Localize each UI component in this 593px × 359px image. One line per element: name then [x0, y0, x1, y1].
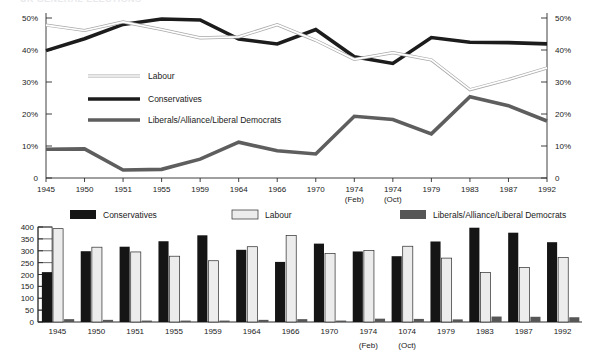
- bar-y-axis-label: 400: [21, 223, 35, 232]
- bar-chart-axes: 400350300250200150100500: [21, 223, 582, 327]
- x-label-1950-1: 1950: [76, 185, 94, 194]
- x-label-1974-9: 1974: [384, 185, 402, 194]
- bar-legend-swatch-liberal: [400, 210, 426, 219]
- bar-liberal-1945: [64, 319, 74, 322]
- bar-y-axis-label: 250: [21, 259, 35, 268]
- bar-labour-1950: [92, 247, 102, 322]
- bar-chart-legend: ConservativesLabourLiberals/Alliance/Lib…: [70, 210, 566, 220]
- bar-conservatives-1964: [236, 250, 246, 322]
- bar-legend-label-conservatives: Conservatives: [103, 210, 157, 220]
- left-y-axis-label: 50%: [22, 14, 38, 23]
- legend-label-conservatives: Conservatives: [148, 94, 202, 104]
- bar-conservatives-1959: [197, 235, 207, 322]
- bar-y-axis-label: 0: [30, 318, 35, 327]
- bar-liberal-1979: [453, 319, 463, 322]
- left-y-axis-label: 40%: [22, 46, 38, 55]
- bar-chart-bars: [42, 228, 579, 322]
- left-y-axis-label: 0: [34, 174, 39, 183]
- bar-liberal-1950: [103, 320, 113, 322]
- x-label-1992-13: 1992: [538, 185, 556, 194]
- bar-liberal-1964: [258, 320, 268, 322]
- x-label-1966-6: 1966: [268, 185, 286, 194]
- bar-conservatives-1979: [430, 241, 440, 322]
- bar-x-sublabel-9: (Oct): [398, 341, 416, 350]
- figure-root: UK GENERAL ELECTIONS 0010%10%20%20%30%30…: [0, 0, 593, 359]
- right-y-axis-label: 30%: [555, 78, 571, 87]
- x-sublabel-8: (Feb): [345, 195, 364, 204]
- line-chart-series: [46, 19, 547, 170]
- bar-x-label-5: 1964: [243, 327, 261, 336]
- bar-liberal-1974 (Oct): [414, 319, 424, 322]
- right-y-axis-label: 0: [555, 174, 560, 183]
- bar-x-label-10: 1979: [437, 327, 455, 336]
- bar-labour-1987: [519, 268, 529, 322]
- bar-liberal-1955: [181, 321, 191, 322]
- bar-labour-1945: [53, 229, 63, 322]
- x-label-1951-2: 1951: [114, 185, 132, 194]
- bar-legend-label-liberal: Liberals/Alliance/Liberal Democrats: [433, 210, 566, 220]
- bar-liberal-1951: [142, 321, 152, 322]
- bar-x-label-1: 1950: [87, 327, 105, 336]
- bar-y-axis-label: 100: [21, 294, 35, 303]
- bar-labour-1951: [131, 252, 141, 322]
- x-label-1979-10: 1979: [422, 185, 440, 194]
- bar-conservatives-1974 (Feb): [353, 251, 363, 322]
- right-y-axis-label: 20%: [555, 110, 571, 119]
- bar-x-label-2: 1951: [126, 327, 144, 336]
- left-y-axis-label: 10%: [22, 142, 38, 151]
- bar-conservatives-1951: [120, 247, 130, 322]
- line-series-labour-fill: [46, 22, 547, 90]
- bar-labour-1959: [208, 261, 218, 322]
- bar-labour-1970: [325, 254, 335, 322]
- x-label-1987-12: 1987: [500, 185, 518, 194]
- bar-liberal-1974 (Feb): [375, 319, 385, 322]
- bar-legend-swatch-labour: [232, 210, 258, 219]
- bar-conservatives-1987: [508, 233, 518, 322]
- bar-conservatives-1970: [314, 244, 324, 322]
- x-label-1974-8: 1974: [345, 185, 363, 194]
- bar-conservatives-1955: [158, 241, 168, 322]
- bar-x-label-4: 1959: [204, 327, 222, 336]
- bar-y-axis-label: 300: [21, 247, 35, 256]
- bar-liberal-1992: [569, 317, 579, 322]
- line-chart-legend: LabourConservativesLiberals/Alliance/Lib…: [88, 71, 281, 125]
- bar-x-label-9: 1074: [398, 327, 416, 336]
- bar-x-label-13: 1992: [554, 327, 572, 336]
- bar-labour-1992: [558, 258, 568, 322]
- bar-conservatives-1992: [547, 242, 557, 322]
- bar-conservatives-1974 (Oct): [392, 256, 402, 322]
- bar-labour-1966: [286, 236, 296, 322]
- bar-labour-1955: [170, 256, 180, 322]
- bar-legend-label-labour: Labour: [265, 210, 292, 220]
- line-series-liberal: [46, 97, 547, 170]
- x-label-1945-0: 1945: [37, 185, 55, 194]
- x-label-1970-7: 1970: [307, 185, 325, 194]
- bar-liberal-1959: [220, 321, 230, 322]
- bar-x-label-0: 1945: [49, 327, 67, 336]
- x-label-1983-11: 1983: [461, 185, 479, 194]
- bar-conservatives-1983: [469, 228, 479, 322]
- vote-share-line-chart: 0010%10%20%20%30%30%40%40%50%50% LabourC…: [0, 0, 593, 205]
- right-y-axis-label: 50%: [555, 14, 571, 23]
- line-chart-x-labels: 194519501951195519591964196619701974(Feb…: [37, 185, 556, 204]
- bar-conservatives-1950: [81, 251, 91, 322]
- bar-labour-1983: [480, 272, 490, 322]
- bar-y-axis-label: 350: [21, 235, 35, 244]
- bar-x-sublabel-8: (Feb): [359, 341, 378, 350]
- bar-y-axis-label: 200: [21, 271, 35, 280]
- bar-x-label-3: 1955: [165, 327, 183, 336]
- bar-y-axis-label: 150: [21, 282, 35, 291]
- right-y-axis-label: 10%: [555, 142, 571, 151]
- bar-labour-1974 (Feb): [364, 251, 374, 322]
- bar-liberal-1966: [297, 319, 307, 322]
- bar-labour-1979: [442, 258, 452, 322]
- bar-x-label-12: 1987: [515, 327, 533, 336]
- bar-x-label-7: 1970: [321, 327, 339, 336]
- line-series-conservative: [46, 19, 547, 63]
- bar-labour-1974 (Oct): [403, 246, 413, 322]
- bar-liberal-1987: [530, 317, 540, 322]
- left-y-axis-label: 30%: [22, 78, 38, 87]
- x-label-1964-5: 1964: [230, 185, 248, 194]
- bar-conservatives-1966: [275, 262, 285, 322]
- legend-label-liberal: Liberals/Alliance/Liberal Democrats: [148, 115, 281, 125]
